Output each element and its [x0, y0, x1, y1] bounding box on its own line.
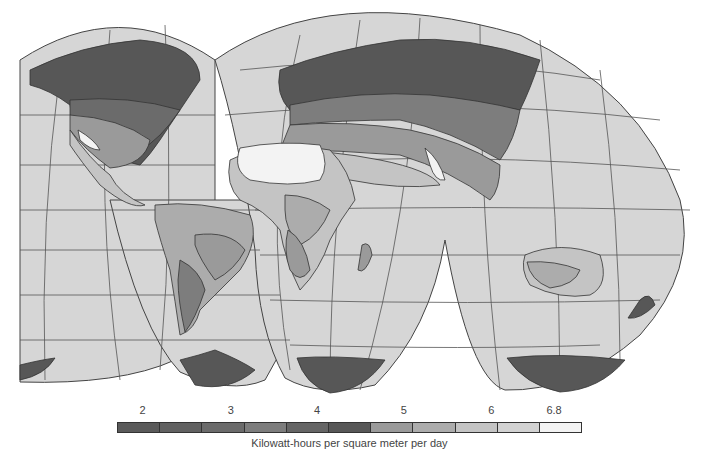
world-insolation-map — [0, 0, 702, 400]
legend-swatch — [287, 423, 329, 432]
legend-tick: 4 — [314, 404, 320, 416]
legend-swatch — [118, 423, 160, 432]
legend-tick: 5 — [401, 404, 407, 416]
legend-swatch — [456, 423, 498, 432]
legend-caption: Kilowatt-hours per square meter per day — [117, 437, 582, 449]
legend-tick: 3 — [228, 404, 234, 416]
legend-tick: 6 — [488, 404, 494, 416]
legend-swatch — [202, 423, 244, 432]
legend-swatch — [540, 423, 581, 432]
legend-tick: 6.8 — [546, 404, 561, 416]
legend-swatch — [498, 423, 540, 432]
legend-swatch — [413, 423, 455, 432]
legend-tick: 2 — [140, 404, 146, 416]
legend: 2 3 4 5 6 6.8 Kilowatt-hours per square … — [117, 404, 582, 464]
legend-swatch — [160, 423, 202, 432]
legend-color-bar — [117, 422, 582, 433]
legend-swatch — [371, 423, 413, 432]
legend-ticks: 2 3 4 5 6 6.8 — [117, 404, 582, 422]
legend-swatch — [329, 423, 371, 432]
legend-swatch — [245, 423, 287, 432]
